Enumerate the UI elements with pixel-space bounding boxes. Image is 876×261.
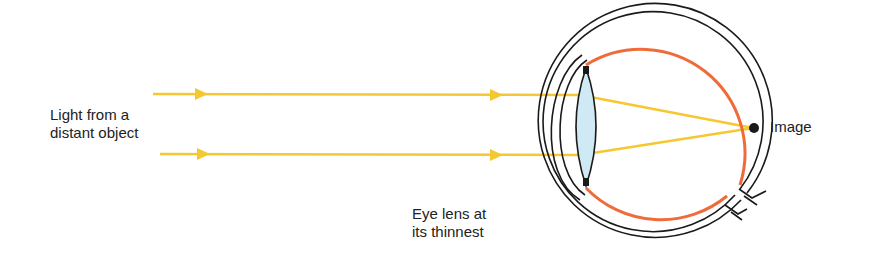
source-label-line2: distant object xyxy=(50,124,138,142)
eyeball-outline xyxy=(538,3,772,237)
image-label: Image xyxy=(770,118,812,136)
retina-lower xyxy=(586,188,727,220)
ciliary-bottom xyxy=(583,178,589,186)
source-label-line1: Light from a xyxy=(50,106,138,124)
light-rays xyxy=(153,94,753,155)
source-label: Light from a distant object xyxy=(50,106,138,142)
retina xyxy=(586,49,745,185)
lens-label-line2: its thinnest xyxy=(412,223,486,241)
lens-label-line1: Eye lens at xyxy=(412,205,486,223)
eye-lens xyxy=(576,68,596,186)
lens-label: Eye lens at its thinnest xyxy=(412,205,486,241)
image-point-icon xyxy=(749,123,759,133)
ray-arrow-icons xyxy=(195,88,503,161)
ciliary-top xyxy=(583,66,589,74)
eye-diagram: Light from a distant object Image Eye le… xyxy=(0,0,876,261)
